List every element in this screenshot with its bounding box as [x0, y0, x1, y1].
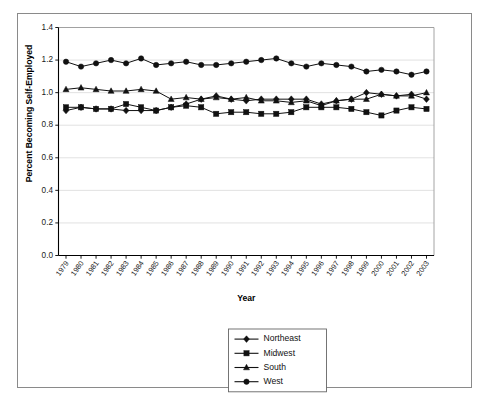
legend-item-label: West — [264, 376, 284, 386]
x-tick-label: 1994 — [279, 259, 296, 278]
data-point-circle-marker — [93, 61, 98, 66]
data-point-triangle-marker — [78, 85, 84, 91]
data-point-circle-marker — [168, 61, 173, 66]
x-tick-label: 1997 — [324, 259, 341, 278]
x-tick-label: 2003 — [414, 259, 431, 278]
x-tick-label: 1989 — [204, 259, 221, 278]
data-point-square-marker — [78, 105, 83, 110]
y-tick-label: 0.0 — [42, 251, 54, 260]
data-point-square-marker — [364, 110, 369, 115]
x-axis: 1979198019811982198319841985198619871988… — [54, 256, 434, 278]
data-point-circle-marker — [138, 56, 143, 61]
data-point-circle-marker — [349, 64, 354, 69]
data-point-circle-marker — [244, 379, 249, 384]
x-tick-label: 1979 — [54, 259, 71, 278]
legend-item-label: South — [264, 362, 287, 372]
data-point-square-marker — [394, 108, 399, 113]
data-point-triangle-marker — [138, 86, 144, 92]
data-point-circle-marker — [424, 69, 429, 74]
x-tick-label: 1986 — [159, 259, 176, 278]
data-point-circle-marker — [244, 59, 249, 64]
data-point-circle-marker — [108, 57, 113, 62]
data-point-diamond-marker — [424, 96, 430, 103]
x-tick-label: 1988 — [189, 259, 206, 278]
y-tick-label: 0.2 — [42, 218, 54, 227]
x-tick-label: 1996 — [309, 259, 326, 278]
data-point-square-marker — [184, 103, 189, 108]
data-point-circle-marker — [259, 57, 264, 62]
data-point-circle-marker — [274, 56, 279, 61]
data-point-square-marker — [244, 110, 249, 115]
data-point-square-marker — [259, 111, 264, 116]
data-point-circle-marker — [379, 67, 384, 72]
data-point-diamond-marker — [364, 89, 370, 96]
data-point-circle-marker — [409, 72, 414, 77]
data-point-square-marker — [108, 106, 113, 111]
x-tick-label: 1985 — [144, 259, 161, 278]
x-tick-label: 1982 — [99, 259, 116, 278]
x-tick-label: 1983 — [114, 259, 131, 278]
data-point-circle-marker — [334, 62, 339, 67]
data-point-circle-marker — [183, 59, 188, 64]
x-tick-label: 1987 — [174, 259, 191, 278]
gridlines — [59, 28, 435, 223]
data-point-circle-marker — [304, 64, 309, 69]
data-point-square-marker — [334, 105, 339, 110]
y-axis: 0.00.20.40.60.81.01.21.4 — [42, 23, 59, 260]
y-tick-label: 0.6 — [42, 153, 54, 162]
data-point-square-marker — [229, 110, 234, 115]
x-tick-label: 1990 — [219, 259, 236, 278]
self-employment-line-chart: 0.00.20.40.60.81.01.21.4 197919801981198… — [0, 0, 491, 411]
x-tick-label: 1991 — [234, 259, 251, 278]
data-point-circle-marker — [289, 61, 294, 66]
data-point-circle-marker — [63, 59, 68, 64]
data-point-square-marker — [139, 105, 144, 110]
data-point-square-marker — [199, 105, 204, 110]
data-point-circle-marker — [214, 62, 219, 67]
data-point-triangle-marker — [423, 89, 429, 95]
x-tick-label: 2001 — [384, 259, 401, 278]
x-axis-title: Year — [237, 293, 256, 303]
x-tick-label: 1984 — [129, 259, 146, 278]
x-tick-label: 2000 — [369, 259, 386, 278]
data-point-square-marker — [349, 106, 354, 111]
data-point-square-marker — [424, 106, 429, 111]
data-point-square-marker — [123, 101, 128, 106]
x-tick-label: 2002 — [399, 259, 416, 278]
x-tick-label: 1980 — [69, 259, 86, 278]
data-point-square-marker — [304, 105, 309, 110]
data-point-circle-marker — [319, 61, 324, 66]
x-tick-label: 1998 — [339, 259, 356, 278]
data-point-square-marker — [169, 105, 174, 110]
x-tick-label: 1992 — [249, 259, 266, 278]
legend-item-label: Midwest — [264, 348, 296, 358]
data-point-square-marker — [154, 108, 159, 113]
y-tick-label: 0.4 — [42, 186, 54, 195]
data-point-square-marker — [409, 105, 414, 110]
data-point-circle-marker — [123, 61, 128, 66]
data-series-group — [63, 56, 429, 118]
x-tick-label: 1993 — [264, 259, 281, 278]
series-west — [63, 56, 429, 78]
data-point-square-marker — [244, 351, 249, 356]
y-axis-title: Percent Becoming Self-Employed — [24, 45, 34, 183]
data-point-square-marker — [93, 106, 98, 111]
data-point-diamond-marker — [123, 107, 129, 114]
data-point-square-marker — [214, 111, 219, 116]
y-tick-label: 0.8 — [42, 120, 54, 129]
y-tick-label: 1.0 — [42, 88, 54, 97]
data-point-square-marker — [63, 105, 68, 110]
y-tick-label: 1.4 — [42, 23, 54, 32]
chart-legend[interactable]: NortheastMidwestSouthWest — [229, 329, 327, 392]
x-tick-label: 1999 — [354, 259, 371, 278]
data-point-square-marker — [274, 111, 279, 116]
data-point-circle-marker — [394, 69, 399, 74]
data-point-triangle-marker — [183, 94, 189, 100]
legend-item-label: Northeast — [264, 333, 302, 343]
data-point-square-marker — [289, 110, 294, 115]
data-point-circle-marker — [364, 69, 369, 74]
data-point-triangle-marker — [243, 94, 249, 100]
data-point-circle-marker — [229, 61, 234, 66]
data-point-square-marker — [379, 113, 384, 118]
x-tick-label: 1981 — [84, 259, 101, 278]
